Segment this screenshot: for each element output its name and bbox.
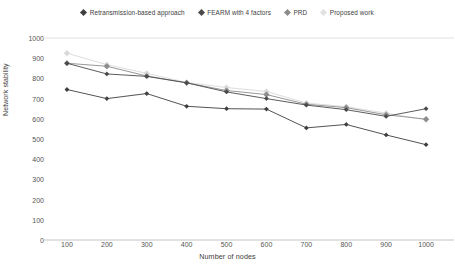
x-tick-label: 300	[141, 241, 153, 248]
data-point-marker	[224, 106, 229, 111]
x-tick-label: 400	[181, 241, 193, 248]
legend-label: Retransmission-based approach	[90, 9, 185, 16]
data-point-marker	[144, 91, 149, 96]
legend-label: FEARM with 4 factors	[207, 9, 271, 16]
data-point-marker	[384, 133, 389, 138]
data-point-marker	[264, 96, 269, 101]
legend-label: Proposed work	[330, 9, 374, 16]
x-tick-label: 800	[340, 241, 352, 248]
legend-item-proposed-work[interactable]: Proposed work	[321, 9, 373, 16]
x-tick-label: 500	[221, 241, 233, 248]
legend-label: PRD	[293, 9, 307, 16]
data-point-marker	[424, 106, 429, 111]
legend-marker-diamond-icon	[198, 9, 205, 16]
legend-marker-diamond-icon	[284, 9, 291, 16]
x-tick-label: 700	[301, 241, 313, 248]
series-proposed-work	[64, 50, 429, 123]
x-tick-label: 600	[261, 241, 273, 248]
x-tick-label: 200	[101, 241, 113, 248]
data-point-marker	[64, 50, 70, 56]
series-line	[67, 90, 426, 145]
data-point-marker	[65, 61, 70, 66]
series-line	[67, 53, 426, 120]
series-prd	[64, 60, 429, 122]
plot-area: Network stability 1000900800700600500400…	[0, 28, 455, 250]
data-point-marker	[104, 72, 109, 77]
x-tick-label: 100	[61, 241, 73, 248]
data-point-marker	[344, 122, 349, 127]
series-retransmission-based-approach	[65, 87, 429, 147]
data-point-marker	[264, 107, 269, 112]
legend-marker-diamond-icon	[80, 9, 87, 16]
data-point-marker	[104, 96, 109, 101]
data-point-marker	[304, 125, 309, 130]
chart-canvas	[0, 28, 455, 250]
data-point-marker	[65, 87, 70, 92]
x-tick-label: 1000	[418, 241, 434, 248]
legend-item-retransmission-based-approach[interactable]: Retransmission-based approach	[81, 9, 184, 16]
chart-legend: Retransmission-based approach FEARM with…	[0, 9, 455, 16]
legend-marker-diamond-icon	[320, 9, 327, 16]
line-chart: Retransmission-based approach FEARM with…	[0, 0, 455, 277]
legend-item-prd[interactable]: PRD	[285, 9, 307, 16]
data-point-marker	[424, 142, 429, 147]
data-point-marker	[423, 116, 429, 122]
x-axis-title: Number of nodes	[0, 252, 455, 261]
data-point-marker	[184, 104, 189, 109]
x-tick-label: 900	[380, 241, 392, 248]
legend-item-fearm-with-4-factors[interactable]: FEARM with 4 factors	[199, 9, 271, 16]
